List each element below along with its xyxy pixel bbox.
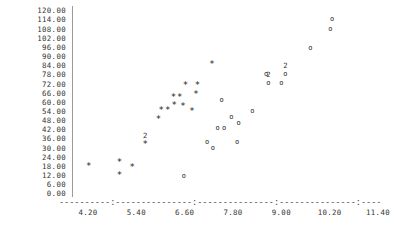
data-point-marker: o (222, 124, 226, 132)
data-point-marker: o (237, 119, 241, 127)
data-point-marker: * (117, 158, 122, 166)
data-point-marker: * (193, 90, 198, 98)
data-point-marker: o (330, 15, 334, 23)
y-tick-label: 120.00 (0, 7, 66, 14)
data-point-marker: * (159, 106, 164, 114)
data-point-marker: o (220, 96, 224, 104)
x-tick-label: 5.40 (127, 209, 146, 217)
x-tick-label: 10.20 (318, 209, 342, 217)
data-point-marker: * (189, 107, 194, 115)
data-point-marker: * (117, 171, 122, 179)
y-tick-label: 72.00 (0, 81, 66, 88)
x-tick-label: 4.20 (78, 209, 97, 217)
data-point-marker: o (205, 138, 209, 146)
data-point-marker: o (266, 79, 270, 87)
y-tick-label: 102.00 (0, 35, 66, 42)
data-point-marker: o (235, 138, 239, 146)
y-tick-label: 54.00 (0, 108, 66, 115)
data-point-marker: * (165, 106, 170, 114)
y-tick-label: 90.00 (0, 53, 66, 60)
data-point-marker: * (171, 101, 176, 109)
data-point-marker: * (130, 163, 135, 171)
y-tick-label: 96.00 (0, 44, 66, 51)
y-tick-label: 30.00 (0, 145, 66, 152)
data-point-marker: o (308, 44, 312, 52)
y-axis-line (72, 6, 73, 197)
y-tick-label: 36.00 (0, 135, 66, 142)
data-point-marker: o (264, 70, 268, 78)
data-point-marker: o (283, 70, 287, 78)
data-point-marker: o (211, 144, 215, 152)
x-tick-label: 11.40 (366, 209, 390, 217)
y-tick-label: 114.00 (0, 16, 66, 23)
data-point-marker: * (209, 60, 214, 68)
data-point-marker: o (328, 25, 332, 33)
y-tick-label: 0.00 (0, 190, 66, 197)
y-axis-tick-labels: 120.00114.00108.00102.0096.0090.0084.007… (0, 0, 66, 226)
data-point-marker: * (180, 102, 185, 110)
y-tick-label: 78.00 (0, 71, 66, 78)
data-point-marker: * (156, 115, 161, 123)
x-tick-label: 7.80 (223, 209, 242, 217)
data-point-marker: o (279, 79, 283, 87)
y-tick-label: 84.00 (0, 62, 66, 69)
y-tick-label: 24.00 (0, 154, 66, 161)
data-point-marker: o (182, 172, 186, 180)
y-tick-label: 60.00 (0, 99, 66, 106)
y-tick-label: 66.00 (0, 90, 66, 97)
data-point-marker: o (229, 113, 233, 121)
x-tick-label: 6.60 (175, 209, 194, 217)
overlap-count-label: 2 (283, 62, 287, 70)
y-tick-label: 18.00 (0, 163, 66, 170)
y-tick-label: 108.00 (0, 26, 66, 33)
data-point-marker: o (216, 124, 220, 132)
y-tick-label: 6.00 (0, 181, 66, 188)
data-point-marker: * (183, 81, 188, 89)
x-axis-line: ----------:---------------:-------------… (59, 199, 380, 205)
y-tick-label: 12.00 (0, 172, 66, 179)
data-point-marker: * (195, 81, 200, 89)
y-tick-label: 42.00 (0, 126, 66, 133)
overlap-count-label: 2 (143, 132, 147, 140)
data-point-marker: * (86, 162, 91, 170)
data-point-marker: * (142, 140, 147, 148)
data-point-marker: o (250, 107, 254, 115)
x-tick-label: 9.00 (272, 209, 291, 217)
scatter-plot: 120.00114.00108.00102.0096.0090.0084.007… (0, 0, 403, 226)
y-tick-label: 48.00 (0, 117, 66, 124)
